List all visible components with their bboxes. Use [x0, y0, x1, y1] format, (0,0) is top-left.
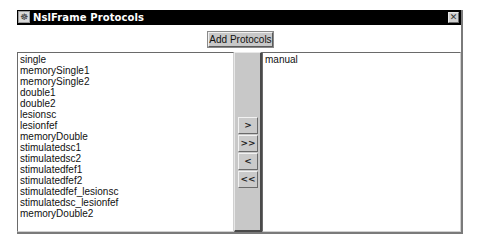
list-item[interactable]: memoryDouble2: [20, 208, 233, 219]
add-selected-button[interactable]: >: [238, 117, 258, 134]
add-protocols-button[interactable]: Add Protocols: [208, 32, 273, 47]
list-item[interactable]: lesionfef: [20, 120, 233, 131]
list-item[interactable]: double1: [20, 87, 233, 98]
list-item[interactable]: manual: [265, 54, 460, 65]
list-item[interactable]: stimulatedsc2: [20, 153, 233, 164]
add-all-button[interactable]: >>: [238, 135, 258, 152]
remove-selected-button[interactable]: <: [238, 153, 258, 170]
list-item[interactable]: stimulatedfef_lesionsc: [20, 186, 233, 197]
protocols-window: ☸ NslFrame Protocols ✕ Add Protocols sin…: [17, 10, 463, 234]
remove-all-button[interactable]: <<: [238, 171, 258, 188]
list-item[interactable]: memorySingle2: [20, 76, 233, 87]
list-item[interactable]: stimulatedfef1: [20, 164, 233, 175]
transfer-button-panel: > >> < <<: [234, 52, 262, 232]
list-item[interactable]: memorySingle1: [20, 65, 233, 76]
selected-protocols-list[interactable]: manual: [262, 52, 461, 232]
title-bar[interactable]: ☸ NslFrame Protocols ✕: [17, 10, 461, 25]
list-item[interactable]: stimulatedsc1: [20, 142, 233, 153]
close-icon: ✕: [450, 12, 458, 22]
window-title: NslFrame Protocols: [33, 10, 144, 25]
available-protocols-list[interactable]: single memorySingle1 memorySingle2 doubl…: [17, 52, 234, 232]
list-item[interactable]: lesionsc: [20, 109, 233, 120]
app-icon: ☸: [18, 11, 30, 23]
list-item[interactable]: double2: [20, 98, 233, 109]
list-item[interactable]: single: [20, 54, 233, 65]
close-button[interactable]: ✕: [448, 12, 459, 23]
list-item[interactable]: memoryDouble: [20, 131, 233, 142]
list-item[interactable]: stimulatedfef2: [20, 175, 233, 186]
list-item[interactable]: stimulatedsc_lesionfef: [20, 197, 233, 208]
